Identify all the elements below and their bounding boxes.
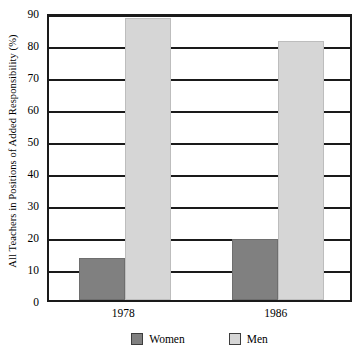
- x-tick-label-1978: 1978: [112, 306, 135, 320]
- legend-label: Women: [149, 333, 184, 346]
- y-tick-label: 10: [0, 264, 39, 276]
- y-axis-tick-labels: 0102030405060708090: [0, 0, 44, 356]
- y-tick-label: 70: [0, 72, 39, 84]
- y-tick-label: 60: [0, 104, 39, 116]
- y-tick-label: 50: [0, 136, 39, 148]
- x-axis-tick-labels: 19781986: [47, 306, 352, 322]
- bars-layer: [49, 16, 350, 300]
- bar-1986-men: [278, 41, 324, 300]
- legend-item-women[interactable]: Women: [131, 333, 184, 346]
- legend-item-men[interactable]: Men: [229, 333, 268, 346]
- y-tick-label: 30: [0, 200, 39, 212]
- y-tick-label: 40: [0, 168, 39, 180]
- y-tick-label: 90: [0, 8, 39, 20]
- chart-legend: WomenMen: [47, 330, 352, 348]
- y-tick-label: 0: [0, 296, 39, 308]
- legend-label: Men: [247, 333, 268, 346]
- bar-1986-women: [232, 239, 278, 300]
- legend-swatch-men: [229, 333, 241, 345]
- y-tick-label: 20: [0, 232, 39, 244]
- legend-swatch-women: [131, 333, 143, 345]
- plot-area: [47, 14, 352, 302]
- bar-chart: All Teachers in Positions of Added Respo…: [0, 0, 364, 356]
- x-tick-label-1986: 1986: [264, 306, 287, 320]
- bar-1978-women: [79, 258, 125, 300]
- y-tick-label: 80: [0, 40, 39, 52]
- bar-1978-men: [125, 18, 171, 300]
